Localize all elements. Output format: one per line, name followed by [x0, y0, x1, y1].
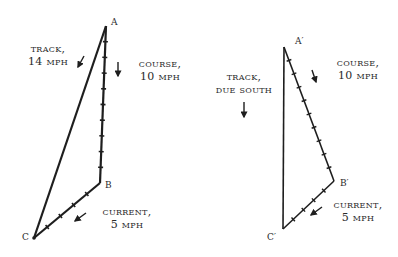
right-current-label: CURRENT, 5 MPH — [327, 198, 389, 224]
right-course-ticks — [287, 60, 332, 169]
tick-mark — [292, 73, 297, 75]
left-point-c-label: C — [22, 232, 29, 242]
right-point-b-label: B′ — [340, 178, 349, 188]
tick-mark — [297, 86, 302, 88]
left-current-arrow-icon — [75, 213, 86, 221]
left-course-label: COURSE, 10 MPH — [132, 57, 188, 83]
left-course-ticks — [98, 42, 108, 168]
left-track-label: TRACK, 14 MPH — [18, 42, 78, 68]
right-point-c-label: C′ — [267, 232, 276, 242]
left-point-c-dot — [32, 236, 36, 240]
right-track-label: TRACK, DUE SOUTH — [213, 70, 275, 96]
left-track-arrow-icon — [78, 56, 84, 67]
tick-mark — [307, 113, 312, 115]
right-course-arrow-icon — [312, 70, 316, 82]
left-course-label-line2: 10 MPH — [132, 70, 188, 83]
left-track-label-line2: 14 MPH — [18, 55, 78, 68]
right-track-line — [283, 47, 284, 229]
right-point-a-label: A′ — [295, 36, 304, 46]
left-course-label-line1: COURSE, — [132, 57, 188, 70]
tick-mark — [287, 60, 292, 62]
right-current-label-line1: CURRENT, — [327, 198, 389, 211]
tick-mark — [322, 153, 327, 155]
left-track-label-line1: TRACK, — [18, 42, 78, 55]
left-current-label: CURRENT, 5 MPH — [96, 205, 158, 231]
right-course-label-line1: COURSE, — [330, 56, 386, 69]
tick-mark — [302, 100, 307, 102]
right-course-label-line2: 10 MPH — [330, 69, 386, 82]
left-current-label-line2: 5 MPH — [96, 218, 158, 231]
left-point-a-label: A — [111, 17, 118, 27]
left-current-label-line1: CURRENT, — [96, 205, 158, 218]
tick-mark — [327, 167, 332, 169]
right-current-label-line2: 5 MPH — [327, 211, 389, 224]
left-point-b-label: B — [105, 180, 112, 190]
tick-mark — [312, 127, 317, 129]
right-track-label-line2: DUE SOUTH — [213, 83, 275, 96]
right-course-label: COURSE, 10 MPH — [330, 56, 386, 82]
right-track-label-line1: TRACK, — [213, 70, 275, 83]
right-current-arrow-icon — [311, 207, 322, 215]
tick-mark — [317, 140, 322, 142]
